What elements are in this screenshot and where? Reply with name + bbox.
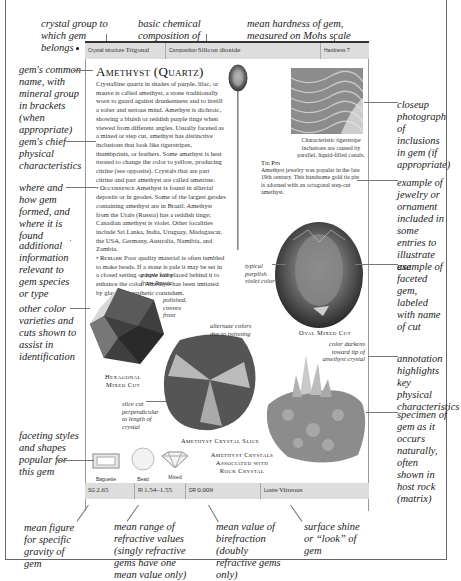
amethyst-crystals-specimen: [258, 345, 370, 467]
tie-pin-description: Tie PinAmethyst jewelry was popular in t…: [261, 159, 361, 197]
oval-mixed-cut-gem: [273, 220, 365, 330]
oval-caption: Oval Mixed Cut: [285, 329, 365, 337]
annotation-faceted: example of faceted gem, labeled with nam…: [397, 261, 447, 333]
annotation-varieties: other color varieties and cuts shown to …: [19, 303, 81, 363]
properties-top-bar: Crystal structureTrigonal CompositionSil…: [85, 41, 369, 59]
composition-cell: CompositionSilicon dioxide: [166, 43, 321, 59]
leader-line: [357, 180, 398, 181]
sg-cell: SG2.65: [85, 483, 135, 499]
inclusion-caption: Characteristic tigerstripe inclusions ar…: [296, 137, 366, 160]
hardness-cell: Hardness7: [321, 43, 369, 59]
ri-cell: RI1.54–1.55: [135, 483, 186, 499]
cut-bead: Bead: [130, 446, 156, 480]
leader-line: [66, 187, 96, 188]
annotation-occurrence: where and how gem formed, and where it i…: [19, 182, 74, 242]
leader-line: [364, 102, 398, 103]
properties-bottom-bar: SG2.65 RI1.54–1.55 DR0.009 LustreVitreou…: [85, 483, 369, 499]
inclusion-closeup-photo: [291, 68, 363, 134]
hexagonal-mixed-cut-gem: [88, 286, 168, 368]
annotation-dr: mean value of birefraction (doubly refra…: [216, 521, 281, 581]
tie-pin-image: [228, 64, 248, 254]
annotation-lustre: surface shine or “look” of gem: [304, 521, 369, 557]
annotation-sg: mean figure for specific gravity of gem: [24, 522, 79, 570]
leader-line: [56, 460, 94, 461]
leader-line: [272, 264, 286, 265]
leader-line: [146, 401, 166, 402]
hexagonal-polish-note: polished, convex front: [163, 296, 193, 319]
crystal-darkens-note: color darkens toward tip of amethyst cry…: [310, 340, 365, 363]
cut-baguette: Baguette: [91, 452, 121, 480]
annotation-jewelry: example of jewelry or ornament included …: [397, 177, 447, 273]
leader-line: [366, 412, 398, 413]
crystal-structure-cell: Crystal structureTrigonal: [85, 43, 166, 59]
gem-description: Crystalline quartz in shades of purple, …: [96, 80, 226, 298]
annotation-common-name: gem's common name, with mineral group in…: [19, 64, 89, 136]
leader-line: [70, 308, 90, 309]
leader-line: [368, 356, 398, 357]
lustre-cell: LustreVitreous: [261, 483, 369, 499]
slice-twinning-note: alternate colors due to twinning: [210, 322, 260, 337]
annotation-specimen: specimen of gem as it occurs naturally, …: [397, 409, 447, 505]
leader-line: [73, 70, 93, 71]
amethyst-crystal-slice: [160, 332, 260, 432]
dr-cell: DR0.009: [186, 483, 261, 499]
hexagonal-caption: HexagonalMixed Cut: [92, 373, 154, 389]
bead-cut-icon: [130, 446, 156, 472]
hexagonal-origin-note: purple stone from Russia: [141, 271, 181, 286]
annotation-additional: additional information relevant to gem s…: [19, 240, 79, 300]
slice-cut-note: slice cut perpendicular to length of cry…: [122, 400, 160, 430]
crystals-caption: Amethyst CrystalsAssociated withRock Cry…: [195, 451, 289, 475]
leader-line: [66, 141, 96, 142]
oval-color-note: typical purplish violet color: [245, 262, 275, 285]
mixed-cut-icon: [160, 450, 190, 470]
annotation-faceting: faceting styles and shapes popular for t…: [19, 430, 81, 478]
annotation-ri: mean range of refractive values (singly …: [114, 521, 194, 581]
annotation-highlights: annotation highlights key physical chara…: [397, 353, 447, 413]
cut-mixed: Mixed: [160, 450, 190, 480]
leader-line: [355, 264, 398, 265]
annotation-closeup: closeup photograph of inclusions in gem …: [397, 99, 447, 171]
gem-title: Amethyst (Quartz): [96, 64, 204, 80]
baguette-cut-icon: [91, 452, 121, 472]
